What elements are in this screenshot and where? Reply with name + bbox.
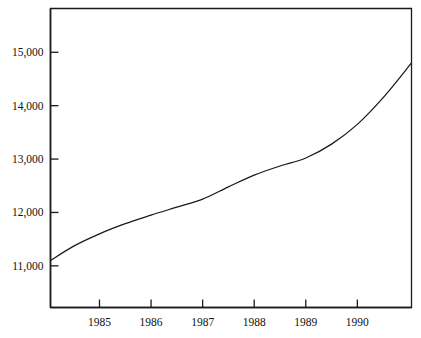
line-chart: 11,00012,00013,00014,00015,000 198519861… [0,0,421,338]
y-tick-label: 13,000 [12,153,44,166]
x-tick-label: 1987 [191,316,214,328]
x-tick-label: 1985 [88,316,111,328]
x-tick-label: 1990 [346,316,369,328]
y-tick-label: 11,000 [12,260,43,273]
y-tick-label: 15,000 [12,46,44,59]
y-tick-label: 12,000 [12,206,44,219]
chart-background [0,0,421,338]
x-tick-label: 1989 [294,316,317,328]
y-tick-label: 14,000 [12,100,44,113]
x-tick-label: 1986 [140,316,163,328]
chart-canvas: 11,00012,00013,00014,00015,000 198519861… [0,0,421,338]
x-tick-label: 1988 [243,316,266,328]
